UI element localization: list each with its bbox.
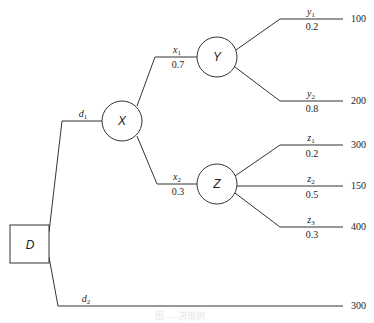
- prob-x2: 0.3: [172, 186, 185, 197]
- branch-label-z1: z1: [306, 132, 315, 145]
- edge-x2: [137, 136, 197, 184]
- branch-label-y1: y1: [306, 6, 315, 19]
- branch-label-d1: d1: [79, 108, 88, 121]
- edge-d2: [49, 257, 343, 306]
- prob-z1: 0.2: [306, 148, 319, 159]
- branch-label-x1: x1: [172, 44, 181, 57]
- branch-label-z2: z2: [306, 173, 315, 186]
- branch-label-x2: x2: [172, 171, 181, 184]
- branch-label-d2: d2: [82, 293, 91, 306]
- prob-x1: 0.7: [172, 59, 185, 70]
- edge-z1: [235, 145, 343, 176]
- payoff-y1: 100: [351, 13, 366, 24]
- prob-z2: 0.5: [306, 189, 319, 200]
- edge-y1: [236, 19, 343, 50]
- payoff-y2: 200: [351, 95, 366, 106]
- edge-z3: [235, 193, 343, 227]
- figure-caption: 图 — 决策树: [155, 310, 205, 321]
- chance-node-y-label: Y: [213, 50, 222, 64]
- payoff-z1: 300: [351, 139, 366, 150]
- edge-d1: [49, 121, 103, 232]
- prob-y2: 0.8: [306, 103, 319, 114]
- chance-node-x-label: X: [117, 114, 127, 128]
- payoff-z2: 150: [351, 180, 366, 191]
- decision-node-label: D: [26, 238, 35, 252]
- edge-y2: [235, 67, 343, 101]
- payoff-z3: 400: [351, 221, 366, 232]
- chance-node-z-label: Z: [212, 177, 221, 191]
- prob-y1: 0.2: [306, 21, 319, 32]
- branch-label-y2: y2: [306, 88, 315, 101]
- payoff-d2: 300: [351, 300, 366, 311]
- edge-x1: [137, 57, 197, 106]
- branch-label-z3: z3: [306, 214, 315, 227]
- decision-tree-diagram: D X Y Z d1 d2 x1 0.7 x2 0.3 y1 0.2 100 y…: [0, 0, 374, 323]
- prob-z3: 0.3: [306, 229, 319, 240]
